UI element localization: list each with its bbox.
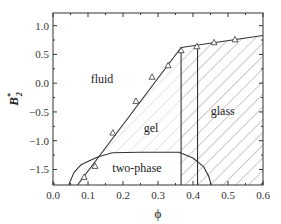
- y-axis-title-main: B: [6, 97, 21, 107]
- triangle-marker-icon: [81, 174, 87, 179]
- y-tick-label: 0.5: [35, 48, 49, 60]
- region-label-fluid: fluid: [91, 72, 114, 86]
- x-tick-label: 0.1: [81, 189, 95, 201]
- region-label-glass: glass: [211, 104, 235, 118]
- x-tick-label: 0.5: [221, 189, 235, 201]
- triangle-marker-icon: [149, 74, 155, 79]
- region-label-gel: gel: [144, 121, 159, 135]
- x-tick-label: 0.0: [46, 189, 60, 201]
- x-axis-title: ϕ: [155, 206, 162, 221]
- y-axis-title: B*2: [6, 92, 24, 107]
- y-axis-title-sub: 2: [15, 92, 24, 97]
- svg-text:B*2: B*2: [6, 92, 24, 107]
- x-tick-label: 0.2: [116, 189, 130, 201]
- triangle-marker-icon: [110, 130, 116, 135]
- y-tick-label: 0.0: [35, 77, 49, 89]
- triangle-marker-icon: [133, 98, 139, 103]
- region-label-two-phase: two-phase: [112, 161, 161, 175]
- y-tick-label: 1.0: [35, 20, 49, 32]
- x-tick-label: 0.3: [151, 189, 165, 201]
- x-tick-label: 0.4: [186, 189, 200, 201]
- phase-diagram-chart: 0.00.10.20.30.40.50.6 1.00.50.0−0.5−1.0−…: [0, 0, 281, 224]
- y-tick-label: −1.0: [29, 135, 49, 147]
- y-axis-title-sup: *: [6, 92, 15, 97]
- y-tick-label: −0.5: [29, 106, 49, 118]
- y-tick-label: −1.5: [29, 163, 49, 175]
- x-tick-label: 0.6: [256, 189, 270, 201]
